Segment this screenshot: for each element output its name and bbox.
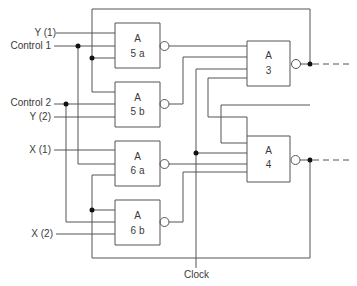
gate-6a-box: [115, 141, 160, 186]
inverter-bubble-3: [292, 60, 301, 69]
wire-control2-to-6b: [66, 104, 115, 222]
gate-3-id: 3: [246, 66, 291, 76]
label-y1: Y (1): [35, 28, 57, 38]
gate-5a-type: A: [115, 34, 160, 44]
inverter-bubble-6b: [160, 218, 169, 227]
gate-5b-id: 5 b: [115, 107, 160, 117]
junction-control2: [64, 102, 69, 107]
gate-5a-box: [115, 23, 160, 68]
junction-control1: [76, 44, 81, 49]
junction-feedback-5a: [90, 56, 95, 61]
wire-clock: [196, 69, 247, 268]
gate-6b-box: [115, 200, 160, 245]
label-clock: Clock: [184, 270, 209, 280]
wire-a4-to-a3: [221, 105, 310, 143]
inverter-bubble-6a: [160, 160, 169, 169]
junction-feedback-6b: [90, 208, 95, 213]
junction-clock: [194, 151, 199, 156]
wire-control1-to-6a: [78, 46, 115, 164]
gate-3-box: [247, 41, 290, 86]
wire-a3-to-a4-cross: [208, 78, 247, 117]
label-x2: X (2): [31, 229, 53, 239]
gate-5b-type: A: [115, 93, 160, 103]
label-control1: Control 1: [10, 41, 51, 51]
gate-6a-type: A: [115, 152, 160, 162]
label-x1: X (1): [29, 145, 51, 155]
label-control2: Control 2: [10, 98, 51, 108]
inverter-bubble-5a: [160, 42, 169, 51]
gate-4-id: 4: [246, 160, 291, 170]
label-y2: Y (2): [30, 112, 52, 122]
junction-a3-out: [308, 62, 313, 67]
logic-diagram: [0, 0, 357, 286]
gate-6b-id: 6 b: [115, 226, 160, 236]
gate-4-type: A: [246, 146, 291, 156]
junction-a4-out: [308, 158, 313, 163]
gate-6b-type: A: [115, 211, 160, 221]
inverter-bubble-4: [291, 156, 300, 165]
gate-3-type: A: [246, 51, 291, 61]
inverter-bubble-5b: [160, 100, 169, 109]
gate-6a-id: 6 a: [115, 166, 160, 176]
gate-5b-box: [115, 82, 160, 127]
gate-5a-id: 5 a: [115, 49, 160, 59]
wire-6b-out: [169, 172, 247, 222]
